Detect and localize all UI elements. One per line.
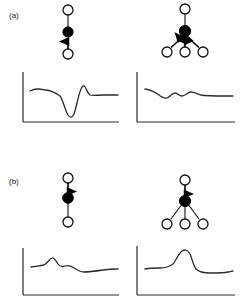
node-filled-center xyxy=(63,27,73,37)
node-open-top xyxy=(63,5,73,15)
edge-center-to-bottom-left xyxy=(171,206,181,220)
edge-bottom-left-to-center-arrow-up xyxy=(171,39,181,48)
motif-a-left-svg xyxy=(40,0,96,64)
data-curve xyxy=(145,89,233,98)
motif-a-right-svg xyxy=(153,0,219,64)
node-filled-center xyxy=(63,193,74,204)
node-open-top xyxy=(63,173,73,183)
node-open-bottom xyxy=(63,217,73,227)
motif-a-left xyxy=(40,0,96,64)
plot-a-right xyxy=(128,62,246,130)
figure-canvas: (a) xyxy=(0,0,247,303)
panel-label-a: (a) xyxy=(9,12,19,20)
motif-a-right xyxy=(153,0,219,64)
node-open-bottom-middle xyxy=(180,47,190,57)
data-curve xyxy=(30,86,118,117)
data-curve xyxy=(31,258,118,272)
node-open-bottom-left xyxy=(162,219,172,229)
node-open-bottom-left xyxy=(162,47,172,57)
plot-a-left-svg xyxy=(14,62,130,130)
node-open-bottom-right xyxy=(198,47,208,57)
plot-b-right xyxy=(128,238,246,300)
node-filled-center xyxy=(179,195,190,206)
node-open-bottom xyxy=(63,49,73,59)
edge-center-to-bottom-right xyxy=(189,206,199,220)
plot-b-left xyxy=(14,238,130,300)
node-open-top xyxy=(180,175,190,185)
node-open-bottom-middle xyxy=(180,219,190,229)
node-filled-center xyxy=(179,25,190,36)
node-open-bottom-right xyxy=(198,219,208,229)
plot-a-left xyxy=(14,62,130,130)
plot-a-right-svg xyxy=(128,62,246,130)
panel-label-b: (b) xyxy=(9,178,19,186)
motif-b-left xyxy=(40,168,96,232)
edge-bottom-right-to-center-arrow-up xyxy=(190,39,200,48)
motif-b-right-svg xyxy=(153,170,219,234)
plot-b-left-svg xyxy=(14,238,130,300)
node-open-top xyxy=(180,4,190,14)
motif-b-left-svg xyxy=(40,168,96,232)
plot-b-right-svg xyxy=(128,238,246,300)
data-curve xyxy=(145,250,233,273)
motif-b-right xyxy=(153,170,219,234)
